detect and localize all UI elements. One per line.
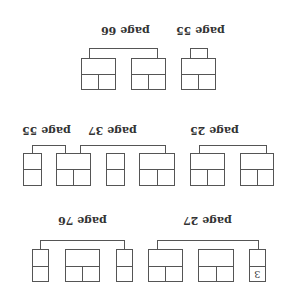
page-node	[32, 249, 49, 282]
page-node	[139, 153, 175, 186]
page-node	[106, 153, 125, 186]
page-node	[81, 58, 116, 90]
group-label-page-55: page 55	[176, 24, 225, 36]
group-label-page-76: page 76	[58, 214, 107, 226]
group-label-page-66: page 66	[101, 24, 150, 36]
page-node	[65, 249, 100, 282]
page-node	[116, 249, 133, 282]
group-bracket	[40, 240, 125, 249]
group-label-page-55: page 55	[22, 124, 71, 136]
page-node	[131, 58, 166, 90]
group-label-page-27: page 27	[183, 214, 232, 226]
group-bracket	[190, 48, 208, 58]
page-tree-diagram: page 66 page 55 page 55 page 37 page 25 …	[0, 0, 288, 301]
page-node: 3	[249, 249, 266, 282]
page-node	[23, 153, 42, 186]
page-node	[56, 153, 91, 186]
page-node	[148, 249, 183, 282]
group-label-page-37: page 37	[88, 124, 137, 136]
group-bracket	[157, 240, 259, 249]
page-node	[240, 153, 274, 186]
group-bracket	[89, 48, 158, 58]
page-node	[190, 153, 225, 186]
page-node	[198, 249, 234, 282]
cell-value: 3	[254, 269, 260, 279]
group-label-page-25: page 25	[190, 124, 239, 136]
page-node	[181, 58, 216, 90]
